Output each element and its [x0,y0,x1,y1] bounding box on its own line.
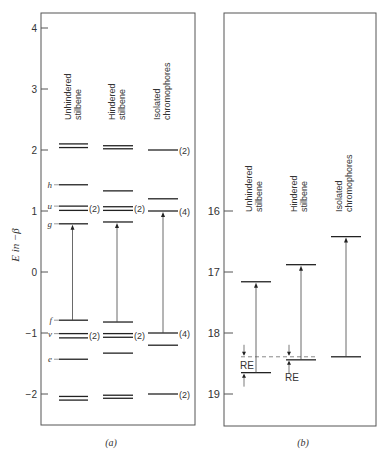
column-label: Isolatedchromophores [152,62,172,120]
panel-b: 16171819 UnhinderedstilbeneREHinderedsti… [208,13,376,449]
arrowhead-icon [161,212,165,217]
re-label: RE [240,360,254,371]
panel-a: 43210−1−2 E in −β Unhinderedstilbenehugf… [9,13,195,449]
arrowhead-icon [242,374,246,378]
arrowhead-icon [242,352,246,356]
arrowhead-icon [115,223,119,228]
panel-b-columns: UnhinderedstilbeneREHinderedstilbeneREIs… [240,154,361,387]
y-tick-label: 1 [31,206,37,217]
y-tick-label: 2 [31,145,37,156]
panel-a-columns: Unhinderedstilbenehugfve(2)(2)Hinderedst… [48,62,191,400]
column-label: Hinderedstilbene [289,175,309,212]
level-label: g [48,219,53,229]
panel-b-caption: (b) [297,437,309,449]
arrowhead-icon [287,352,291,356]
column-label: Unhinderedstilbene [63,73,83,120]
y-tick-label: 0 [31,267,37,278]
level-label: h [48,180,53,190]
degeneracy-label: (2) [179,390,190,400]
y-tick-label: 17 [208,266,220,278]
arrowhead-icon [287,361,291,365]
level-label: f [49,315,53,325]
y-tick-label: 19 [208,388,220,400]
y-tick-label: 18 [208,327,220,339]
y-tick-label: 3 [31,84,37,95]
degeneracy-label: (2) [89,331,100,341]
y-tick-label: 4 [31,23,37,34]
arrowhead-icon [254,283,258,288]
level-column: Isolatedchromophores [331,154,361,357]
y-axis-label: E in −β [9,228,21,263]
level-column: HinderedstilbeneRE [285,175,316,382]
y-tick-label: −1 [26,328,38,339]
level-label: v [48,329,52,339]
level-label: u [48,201,53,211]
degeneracy-label: (4) [179,207,190,217]
panel-a-y-axis: 43210−1−2 [26,23,48,400]
degeneracy-label: (4) [179,329,190,339]
panel-b-y-axis: 16171819 [208,205,233,400]
arrowhead-icon [299,266,303,271]
degeneracy-label: (2) [134,331,145,341]
column-label: Unhinderedstilbene [244,165,264,212]
column-label: Isolatedchromophores [334,154,354,212]
degeneracy-label: (2) [179,146,190,156]
level-column: Unhinderedstilbenehugfve(2)(2) [48,73,101,400]
y-tick-label: −2 [26,389,38,400]
arrowhead-icon [344,238,348,243]
level-column: Hinderedstilbene(2)(2) [103,83,145,398]
energy-level-figure: 43210−1−2 E in −β Unhinderedstilbenehugf… [0,0,385,460]
figure-canvas: 43210−1−2 E in −β Unhinderedstilbenehugf… [0,0,385,460]
level-column: Isolatedchromophores(2)(4)(4)(2) [148,62,190,400]
arrowhead-icon [71,225,75,230]
degeneracy-label: (2) [89,204,100,214]
y-tick-label: 16 [208,205,220,217]
degeneracy-label: (2) [134,204,145,214]
panel-a-caption: (a) [105,437,117,449]
level-column: UnhinderedstilbeneRE [240,165,271,386]
re-label: RE [285,372,299,383]
level-label: e [48,354,52,364]
column-label: Hinderedstilbene [107,83,127,120]
